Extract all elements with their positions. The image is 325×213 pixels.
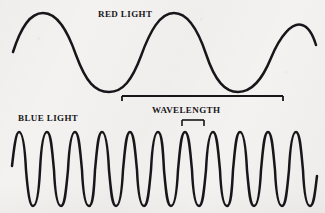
- blue-light-wave: [12, 132, 317, 206]
- red-wavelength-bracket: [122, 96, 283, 101]
- blue-light-label: BLUE LIGHT: [18, 114, 78, 123]
- wavelength-label: WAVELENGTH: [152, 106, 220, 115]
- red-light-wave: [13, 13, 316, 92]
- red-light-label: RED LIGHT: [98, 10, 152, 19]
- wavelength-diagram: RED LIGHT BLUE LIGHT WAVELENGTH: [0, 0, 325, 213]
- blue-wavelength-bracket: [182, 120, 204, 126]
